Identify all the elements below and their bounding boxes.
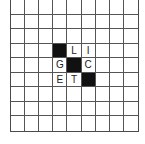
grid-cell[interactable] <box>39 29 53 44</box>
grid-cell[interactable] <box>11 15 25 30</box>
grid-cell[interactable] <box>67 87 81 102</box>
black-square <box>53 44 67 59</box>
grid-cell[interactable] <box>11 73 25 88</box>
grid-cell[interactable] <box>96 116 110 131</box>
black-square <box>67 58 81 73</box>
grid-cell[interactable] <box>67 15 81 30</box>
grid-cell[interactable] <box>11 29 25 44</box>
grid-cell[interactable]: L <box>67 44 81 59</box>
grid-cell[interactable] <box>53 102 67 117</box>
grid-cell[interactable] <box>39 116 53 131</box>
grid-cell[interactable] <box>110 15 124 30</box>
grid-cell[interactable] <box>11 58 25 73</box>
grid-cell[interactable] <box>25 87 39 102</box>
grid-cell[interactable] <box>96 0 110 15</box>
grid-cell[interactable] <box>39 0 53 15</box>
grid-cell[interactable] <box>53 116 67 131</box>
grid-cell[interactable] <box>53 87 67 102</box>
grid-cell[interactable] <box>25 0 39 15</box>
grid-cell[interactable] <box>39 102 53 117</box>
grid-cell[interactable] <box>25 58 39 73</box>
grid-cell[interactable] <box>67 116 81 131</box>
grid-cell[interactable] <box>53 15 67 30</box>
grid-cell[interactable] <box>53 0 67 15</box>
grid-cell[interactable] <box>110 116 124 131</box>
crossword-grid: LIGCET <box>10 0 139 132</box>
grid-cell[interactable] <box>82 87 96 102</box>
grid-cell[interactable] <box>11 116 25 131</box>
grid-cell[interactable] <box>25 29 39 44</box>
grid-cell[interactable] <box>96 102 110 117</box>
grid-cell[interactable] <box>25 102 39 117</box>
grid-cell[interactable] <box>110 0 124 15</box>
grid-cell[interactable] <box>25 44 39 59</box>
grid-cell[interactable] <box>110 73 124 88</box>
grid-cell[interactable] <box>25 116 39 131</box>
grid-cell[interactable] <box>96 58 110 73</box>
grid-cell[interactable] <box>82 15 96 30</box>
grid-cell[interactable] <box>110 87 124 102</box>
grid-cell[interactable] <box>124 15 138 30</box>
grid-cell[interactable] <box>96 15 110 30</box>
grid-cell[interactable] <box>124 87 138 102</box>
grid-cell[interactable] <box>96 29 110 44</box>
grid-cell[interactable] <box>110 29 124 44</box>
grid-cell[interactable] <box>11 0 25 15</box>
grid-cell[interactable] <box>39 73 53 88</box>
grid-cell[interactable] <box>124 58 138 73</box>
grid-cell[interactable] <box>25 15 39 30</box>
grid-cell[interactable]: G <box>53 58 67 73</box>
grid-cell[interactable] <box>67 29 81 44</box>
grid-cell[interactable] <box>82 0 96 15</box>
grid-cell[interactable] <box>124 73 138 88</box>
grid-cell[interactable] <box>25 73 39 88</box>
grid-cell[interactable] <box>82 116 96 131</box>
grid-cell[interactable] <box>53 29 67 44</box>
grid-cell[interactable] <box>39 87 53 102</box>
grid-cell[interactable]: C <box>82 58 96 73</box>
black-square <box>82 73 96 88</box>
grid-cell[interactable] <box>96 44 110 59</box>
grid-cell[interactable] <box>96 73 110 88</box>
grid-cell[interactable] <box>82 29 96 44</box>
grid-cell[interactable] <box>124 116 138 131</box>
grid-cell[interactable] <box>11 102 25 117</box>
grid-cell[interactable]: I <box>82 44 96 59</box>
grid-cell[interactable] <box>110 44 124 59</box>
grid-cell[interactable] <box>110 58 124 73</box>
grid-cell[interactable] <box>67 0 81 15</box>
grid-cell[interactable] <box>124 102 138 117</box>
grid-cell[interactable]: T <box>67 73 81 88</box>
grid-cell[interactable]: E <box>53 73 67 88</box>
grid-cell[interactable] <box>39 44 53 59</box>
grid-cell[interactable] <box>11 87 25 102</box>
grid-cell[interactable] <box>96 87 110 102</box>
grid-cell[interactable] <box>11 44 25 59</box>
grid-cell[interactable] <box>124 44 138 59</box>
grid-cell[interactable] <box>124 0 138 15</box>
grid-cell[interactable] <box>110 102 124 117</box>
grid-cell[interactable] <box>39 15 53 30</box>
grid-cell[interactable] <box>124 29 138 44</box>
grid-cell[interactable] <box>39 58 53 73</box>
grid-cell[interactable] <box>67 102 81 117</box>
grid-cell[interactable] <box>82 102 96 117</box>
